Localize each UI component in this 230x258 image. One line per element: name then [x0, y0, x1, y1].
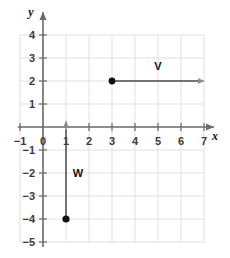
axes — [18, 12, 214, 247]
x-tick-label: 2 — [86, 135, 92, 147]
coordinate-plane-figure: −1012345674321−1−2−3−4−5 y x V W — [0, 0, 230, 258]
x-tick-label: 6 — [178, 135, 184, 147]
y-tick-label: −2 — [22, 167, 35, 179]
y-tick-label: 4 — [29, 29, 36, 41]
figure-labels: y x V W — [26, 5, 218, 179]
y-tick-label: 3 — [29, 52, 35, 64]
y-tick-label: −4 — [22, 213, 35, 225]
x-tick-label: 5 — [155, 135, 161, 147]
x-tick-label: 4 — [132, 135, 139, 147]
vector-v-label: V — [154, 60, 162, 72]
x-tick-label: 3 — [109, 135, 115, 147]
y-axis-arrow-icon — [39, 12, 46, 20]
vector-v — [109, 78, 205, 85]
x-tick-label: 0 — [40, 135, 46, 147]
vector-w-tail-point — [62, 215, 69, 222]
y-tick-label: −5 — [22, 236, 35, 248]
coordinate-plane-svg: −1012345674321−1−2−3−4−5 y x V W — [0, 0, 230, 258]
vector-v-tail-point — [109, 78, 116, 85]
vector-w-arrowhead-icon — [63, 120, 69, 128]
x-axis-label: x — [211, 129, 218, 143]
y-tick-label: 1 — [29, 98, 35, 110]
x-tick-label: 7 — [201, 135, 207, 147]
y-tick-label: −1 — [22, 144, 35, 156]
vector-w-label: W — [73, 167, 84, 179]
y-axis-label: y — [26, 5, 34, 19]
y-tick-label: 2 — [29, 75, 35, 87]
y-tick-label: −3 — [22, 190, 35, 202]
